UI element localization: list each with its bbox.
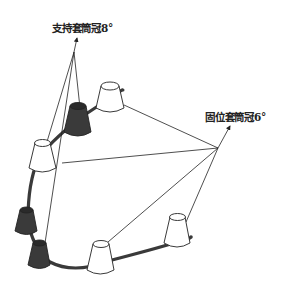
retention-crown-top xyxy=(96,82,124,112)
retention-crown-label: 固位套筒冠6° xyxy=(205,109,266,124)
retention-crown-bottom xyxy=(87,241,114,275)
telescopic-crown-diagram: 支持套筒冠8° 固位套筒冠6° xyxy=(0,0,283,288)
support-crown-bottom xyxy=(28,240,50,269)
support-crown-label: 支持套筒冠8° xyxy=(52,20,113,35)
support-lines xyxy=(45,38,80,243)
support-crown-left xyxy=(15,207,37,235)
support-crown-upper xyxy=(64,103,91,137)
diagram-graphic xyxy=(0,0,283,288)
retention-crown-right xyxy=(164,214,190,248)
